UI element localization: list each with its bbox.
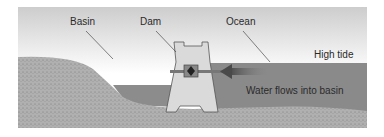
high-tide-label: High tide: [314, 50, 353, 60]
basin-label: Basin: [70, 17, 95, 27]
flow-label: Water flows into basin: [246, 86, 343, 96]
tidal-diagram: Basin Dam Ocean High tide Water flows in…: [18, 7, 367, 128]
flow-arrow-shaft: [230, 68, 270, 75]
ocean-label: Ocean: [226, 17, 255, 27]
dam-label: Dam: [140, 17, 161, 27]
